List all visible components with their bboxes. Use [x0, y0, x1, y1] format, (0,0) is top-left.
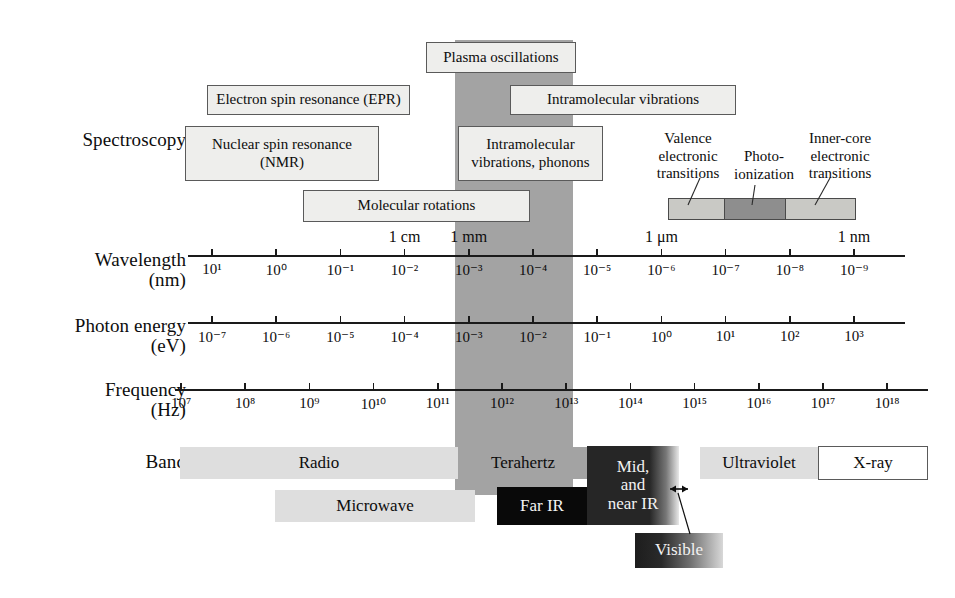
axis-line-photon-energy [188, 322, 905, 324]
axis-tick [853, 316, 855, 323]
axis-tick-label-frequency: 10¹⁴ [604, 395, 656, 412]
spectroscopy-box-intramolecular-vibrations: Intramolecular vibrations [510, 85, 736, 115]
axis-tick-label-photon-energy: 10³ [828, 328, 880, 345]
row-label-band: Band [30, 452, 186, 472]
axis-tick-label-frequency: 10¹⁰ [348, 395, 400, 413]
axis-tick-label-wavelength: 10⁻⁶ [635, 261, 687, 279]
axis-tick-label-wavelength: 10⁻¹ [314, 261, 366, 279]
row-unit-photon-energy: (eV) [18, 336, 186, 356]
band-line: Mid, [617, 458, 650, 476]
band-ultraviolet: Ultraviolet [700, 447, 818, 479]
axis-tick [275, 316, 277, 323]
axis-tick-label-photon-energy: 10⁻² [507, 328, 559, 346]
axis-over-label: 1 nm [822, 228, 886, 246]
axis-tick-label-frequency: 10⁷ [155, 395, 207, 412]
axis-tick [532, 249, 534, 256]
axis-tick [501, 383, 503, 390]
axis-tick-label-frequency: 10¹⁶ [733, 395, 785, 412]
electromagnetic-spectrum-figure: Spectroscopy Wavelength (nm) Photon ener… [0, 0, 955, 598]
axis-tick-label-wavelength: 10⁻⁹ [828, 261, 880, 279]
axis-tick [275, 249, 277, 256]
axis-line-wavelength [188, 255, 905, 257]
axis-tick [886, 383, 888, 390]
axis-tick [404, 249, 406, 256]
axis-tick [725, 316, 727, 323]
anno-line: Inner-core [796, 130, 884, 148]
axis-tick [725, 249, 727, 256]
axis-tick [468, 249, 470, 256]
anno-line: Photo- [725, 148, 803, 166]
axis-tick-label-photon-energy: 10⁻⁵ [314, 328, 366, 346]
band-far-ir: Far IR [497, 487, 587, 525]
band-line: near IR [608, 495, 659, 513]
axis-tick-label-frequency: 10¹² [476, 395, 528, 412]
spectroscopy-box-intramolecular-vibrations-phonons: Intramolecular vibrations, phonons [458, 126, 603, 181]
axis-tick-label-wavelength: 10⁻⁸ [764, 261, 816, 279]
axis-tick [373, 383, 375, 390]
row-label-photon-energy: Photon energy (eV) [18, 316, 186, 356]
axis-tick [630, 383, 632, 390]
band-xray: X-ray [818, 446, 928, 480]
axis-tick-label-wavelength: 10⁻³ [443, 261, 495, 279]
axis-tick [437, 383, 439, 390]
axis-tick [309, 383, 311, 390]
axis-tick-label-photon-energy: 10⁰ [635, 328, 687, 346]
axis-tick [180, 383, 182, 390]
axis-tick-label-photon-energy: 10⁻⁴ [379, 328, 431, 346]
spectroscopy-box-nuclear-spin-resonance: Nuclear spin resonance (NMR) [185, 126, 379, 181]
axis-tick-label-frequency: 10¹⁸ [861, 395, 913, 412]
row-label-wavelength: Wavelength (nm) [30, 250, 186, 290]
axis-tick-label-frequency: 10⁹ [283, 395, 335, 412]
axis-tick-label-wavelength: 10¹ [186, 261, 238, 278]
row-unit-wavelength: (nm) [30, 270, 186, 290]
anno-line: electronic [648, 148, 728, 166]
axis-tick-label-frequency: 10¹¹ [412, 395, 464, 412]
axis-tick [789, 316, 791, 323]
axis-tick [853, 249, 855, 256]
axis-tick [822, 383, 824, 390]
axis-tick [596, 316, 598, 323]
axis-over-label: 1 mm [437, 228, 501, 246]
spectroscopy-box-molecular-rotations: Molecular rotations [303, 190, 530, 222]
axis-over-label: 1 cm [373, 228, 437, 246]
axis-tick-label-wavelength: 10⁻⁷ [700, 261, 752, 279]
axis-tick [532, 316, 534, 323]
axis-tick-label-frequency: 10¹⁷ [797, 395, 849, 412]
axis-tick [661, 249, 663, 256]
spectroscopy-box-electron-spin-resonance: Electron spin resonance (EPR) [207, 85, 410, 115]
axis-tick [694, 383, 696, 390]
axis-tick-label-frequency: 10⁸ [219, 395, 271, 412]
axis-tick [404, 316, 406, 323]
band-microwave: Microwave [275, 490, 475, 522]
axis-tick [340, 249, 342, 256]
axis-tick [596, 249, 598, 256]
axis-tick [468, 316, 470, 323]
axis-tick-label-photon-energy: 10¹ [700, 328, 752, 345]
axis-line-frequency [175, 389, 928, 391]
axis-tick-label-frequency: 10¹⁵ [669, 395, 721, 412]
axis-tick-label-photon-energy: 10² [764, 328, 816, 345]
axis-tick-label-wavelength: 10⁻⁵ [571, 261, 623, 279]
axis-tick [661, 316, 663, 323]
axis-tick-label-wavelength: 10⁻⁴ [507, 261, 559, 279]
axis-tick-label-wavelength: 10⁻² [379, 261, 431, 279]
spectroscopy-box-plasma-oscillations: Plasma oscillations [426, 42, 576, 73]
anno-line: Valence [648, 130, 728, 148]
axis-tick-label-frequency: 10¹³ [540, 395, 592, 412]
visible-band-arrow-and-leader [664, 482, 734, 538]
axis-tick-label-photon-energy: 10⁻³ [443, 328, 495, 346]
axis-tick [758, 383, 760, 390]
row-label-spectroscopy: Spectroscopy [36, 130, 186, 150]
axis-tick-label-photon-energy: 10⁻¹ [571, 328, 623, 346]
axis-tick [340, 316, 342, 323]
annotation-leader-lines [640, 175, 870, 215]
axis-tick-label-wavelength: 10⁰ [250, 261, 302, 279]
band-visible: Visible [635, 533, 723, 568]
axis-tick [789, 249, 791, 256]
axis-tick [211, 249, 213, 256]
band-radio: Radio [180, 447, 458, 479]
band-line: and [621, 476, 646, 494]
axis-tick-label-photon-energy: 10⁻⁶ [250, 328, 302, 346]
axis-tick-label-photon-energy: 10⁻⁷ [186, 328, 238, 346]
axis-tick [565, 383, 567, 390]
